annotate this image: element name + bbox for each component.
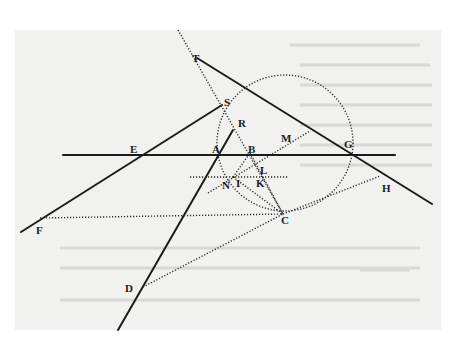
point-label-L: L xyxy=(260,164,267,176)
line-F-through-E-to-S xyxy=(21,105,222,232)
point-label-H: H xyxy=(382,182,391,194)
dotted-C-to-H xyxy=(283,176,380,214)
point-label-S: S xyxy=(224,96,230,108)
point-label-N: N xyxy=(222,179,230,191)
point-label-G: G xyxy=(344,138,353,150)
point-label-K: K xyxy=(256,177,265,189)
dotted-F-to-C xyxy=(40,214,283,218)
point-label-R: R xyxy=(238,117,247,129)
point-label-D: D xyxy=(125,282,133,294)
point-label-F: F xyxy=(36,224,43,236)
point-label-C: C xyxy=(281,214,289,226)
point-label-B: B xyxy=(248,143,256,155)
point-label-M: M xyxy=(281,132,292,144)
point-label-T: T xyxy=(192,52,200,64)
geometry-figure: TSRMEABGLNIKHCFD xyxy=(0,0,451,346)
dotted-N-to-B xyxy=(233,153,250,177)
point-label-E: E xyxy=(130,143,137,155)
point-label-I: I xyxy=(236,177,240,189)
page: TSRMEABGLNIKHCFD xyxy=(0,0,451,346)
point-label-A: A xyxy=(212,143,220,155)
